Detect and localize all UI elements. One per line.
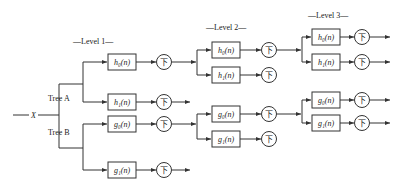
- input-x: X: [13, 111, 59, 120]
- dual-tree-wavelet-diagram: —Level 1— —Level 2— —Level 3— X Tree A T…: [0, 0, 399, 189]
- svg-text:h₁(n): h₁(n): [114, 98, 130, 107]
- svg-text:下: 下: [265, 46, 273, 55]
- svg-text:下: 下: [265, 110, 273, 119]
- level2-tree-a: h₀(n) h₁(n) 下 下: [197, 42, 301, 83]
- svg-text:h₀(n): h₀(n): [218, 46, 234, 55]
- svg-text:g₀(n): g₀(n): [318, 96, 334, 105]
- level2-tree-b: g₀(n) g₁(n) 下 下: [197, 106, 301, 147]
- svg-text:下: 下: [160, 58, 168, 67]
- svg-text:下: 下: [358, 33, 366, 42]
- svg-text:下: 下: [358, 96, 366, 105]
- tree-b-label: Tree B: [48, 128, 70, 137]
- level1-tree-a: h₀(n) h₁(n) 下 下: [83, 54, 196, 110]
- svg-text:h₀(n): h₀(n): [318, 33, 334, 42]
- level-3-label: —Level 3—: [307, 11, 349, 20]
- svg-text:g₀(n): g₀(n): [114, 120, 130, 129]
- svg-text:g₁(n): g₁(n): [218, 135, 234, 144]
- svg-text:g₁(n): g₁(n): [318, 119, 334, 128]
- svg-text:下: 下: [358, 58, 366, 67]
- svg-text:h₀(n): h₀(n): [114, 58, 130, 67]
- svg-text:下: 下: [265, 71, 273, 80]
- svg-text:下: 下: [160, 98, 168, 107]
- svg-text:下: 下: [160, 120, 168, 129]
- tree-a-label: Tree A: [48, 94, 70, 103]
- svg-text:下: 下: [265, 135, 273, 144]
- svg-text:h₁(n): h₁(n): [218, 71, 234, 80]
- tree-split: Tree A Tree B: [48, 84, 83, 148]
- level1-tree-b: g₀(n) g₁(n) 下 下: [83, 116, 196, 178]
- level-1-label: —Level 1—: [72, 37, 114, 46]
- svg-text:g₀(n): g₀(n): [218, 110, 234, 119]
- level3-tree-b: g₀(n) g₁(n) 下 下: [302, 92, 390, 131]
- svg-text:h₁(n): h₁(n): [318, 58, 334, 67]
- level3-tree-a: h₀(n) h₁(n) 下 下: [302, 29, 390, 70]
- input-x-label: X: [30, 111, 37, 120]
- svg-text:g₁(n): g₁(n): [114, 166, 130, 175]
- svg-text:下: 下: [358, 119, 366, 128]
- level-2-label: —Level 2—: [205, 23, 247, 32]
- svg-text:下: 下: [160, 166, 168, 175]
